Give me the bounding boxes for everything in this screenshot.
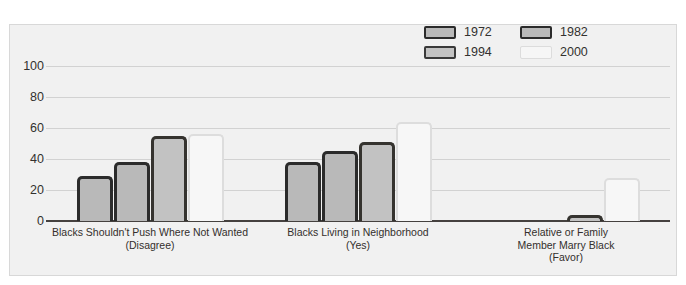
y-tick-80: 80: [0, 91, 44, 103]
y-tick-20: 20: [0, 184, 44, 196]
y-tick-label: 100: [6, 60, 44, 73]
y-tick-label: 0: [6, 215, 44, 228]
x-axis-group-label: Blacks Shouldn't Push Where Not Wanted (…: [46, 226, 254, 251]
bar-1994[interactable]: [359, 142, 395, 221]
x-axis-group-label: Blacks Living in Neighborhood (Yes): [254, 226, 462, 251]
y-tick-label: 60: [6, 122, 44, 135]
y-tick-label: 40: [6, 153, 44, 166]
y-tick-40: 40: [0, 153, 44, 165]
bar-group: Blacks Shouldn't Push Where Not Wanted (…: [46, 0, 254, 285]
x-axis-group-label: Relative or Family Member Marry Black (F…: [462, 226, 670, 264]
y-tick-label: 80: [6, 91, 44, 104]
y-tick-0: 0: [0, 215, 44, 227]
bar-1982[interactable]: [322, 151, 358, 221]
bar-1994[interactable]: [151, 136, 187, 221]
bar-2000[interactable]: [604, 178, 640, 221]
y-tick-label: 20: [6, 184, 44, 197]
bar-1982[interactable]: [114, 162, 150, 221]
y-tick-60: 60: [0, 122, 44, 134]
bar-2000[interactable]: [188, 134, 224, 221]
bar-1972[interactable]: [77, 176, 113, 221]
bar-2000[interactable]: [396, 122, 432, 221]
grouped-bar-chart: 1972 1982 1994 2000 020406080100 Blacks …: [0, 0, 686, 285]
y-tick-100: 100: [0, 60, 44, 72]
bar-group: Relative or Family Member Marry Black (F…: [462, 0, 670, 285]
bar-group: Blacks Living in Neighborhood (Yes): [254, 0, 462, 285]
bar-groups: Blacks Shouldn't Push Where Not Wanted (…: [46, 0, 670, 285]
bar-1972[interactable]: [285, 162, 321, 221]
bar-1994[interactable]: [567, 215, 603, 221]
